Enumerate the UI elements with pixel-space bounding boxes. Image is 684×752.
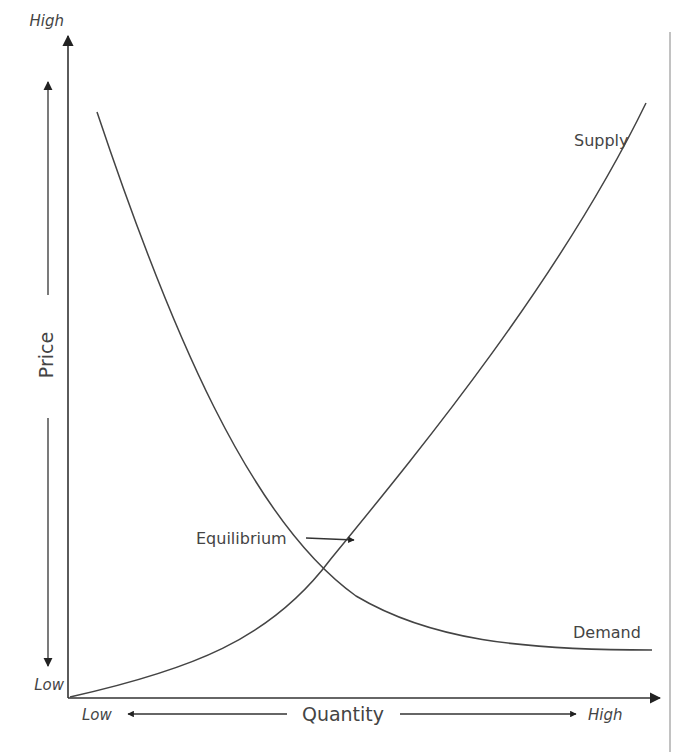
supply-demand-chart: High Low Low High Quantity Price Supply …	[0, 0, 684, 752]
y-axis-title: Price	[35, 332, 57, 378]
y-low-label: Low	[34, 676, 65, 694]
x-low-label: Low	[82, 706, 113, 724]
demand-label: Demand	[573, 623, 641, 642]
supply-label: Supply	[574, 131, 629, 150]
equilibrium-label: Equilibrium	[196, 529, 287, 548]
y-high-label: High	[30, 12, 64, 30]
x-axis-title: Quantity	[302, 703, 384, 725]
x-high-label: High	[588, 706, 622, 724]
demand-curve	[97, 112, 652, 650]
supply-curve	[70, 103, 646, 697]
